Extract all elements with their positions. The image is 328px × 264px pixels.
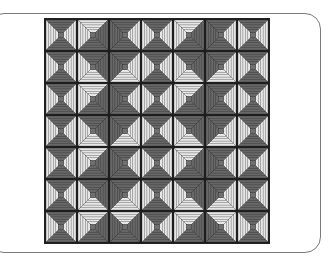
quilt-block xyxy=(173,51,205,83)
quilt-block xyxy=(45,211,77,243)
quilt-block xyxy=(109,211,141,243)
quilt-block xyxy=(45,179,77,211)
quilt-block xyxy=(141,83,173,115)
quilt-block xyxy=(77,147,109,179)
quilt-block xyxy=(141,147,173,179)
quilt-block xyxy=(173,147,205,179)
quilt-block xyxy=(45,147,77,179)
quilt-block xyxy=(141,19,173,51)
quilt-block xyxy=(205,19,237,51)
quilt-block xyxy=(237,83,269,115)
quilt-block xyxy=(141,211,173,243)
quilt-block xyxy=(109,51,141,83)
quilt-block xyxy=(173,211,205,243)
quilt-block xyxy=(205,51,237,83)
quilt-block xyxy=(237,147,269,179)
quilt-block xyxy=(77,179,109,211)
quilt-block xyxy=(141,179,173,211)
quilt-block xyxy=(237,115,269,147)
quilt-block xyxy=(141,115,173,147)
quilt-block xyxy=(77,51,109,83)
quilt-block xyxy=(205,211,237,243)
quilt-block xyxy=(77,211,109,243)
quilt-block xyxy=(205,83,237,115)
quilt-block xyxy=(173,179,205,211)
quilt-grid xyxy=(44,18,270,244)
quilt-block xyxy=(173,19,205,51)
quilt-block xyxy=(173,83,205,115)
quilt-block xyxy=(109,147,141,179)
quilt-block xyxy=(45,115,77,147)
quilt-block xyxy=(45,19,77,51)
quilt-block xyxy=(109,19,141,51)
quilt-block xyxy=(237,51,269,83)
quilt-block xyxy=(45,83,77,115)
quilt-block xyxy=(237,19,269,51)
quilt-block xyxy=(77,115,109,147)
quilt-block xyxy=(141,51,173,83)
quilt-block xyxy=(173,115,205,147)
quilt-block xyxy=(45,51,77,83)
quilt-block xyxy=(237,179,269,211)
quilt-block xyxy=(205,179,237,211)
quilt-block xyxy=(205,147,237,179)
quilt-block xyxy=(77,19,109,51)
quilt-block xyxy=(109,179,141,211)
quilt-block xyxy=(77,83,109,115)
quilt-block xyxy=(109,83,141,115)
quilt-block xyxy=(109,115,141,147)
quilt-block xyxy=(205,115,237,147)
quilt-block xyxy=(237,211,269,243)
